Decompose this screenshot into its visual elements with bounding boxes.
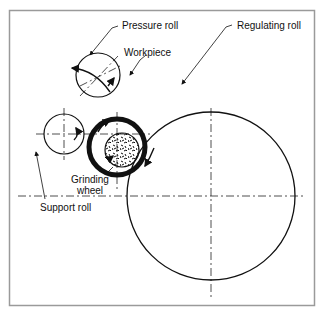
label-pressure-roll: Pressure roll <box>122 20 178 31</box>
label-grinding-wheel: Grinding wheel <box>66 174 114 196</box>
label-support-roll: Support roll <box>40 202 91 213</box>
pressure-roll <box>76 53 120 97</box>
workpiece <box>105 133 139 167</box>
label-grinding-wheel-line2: wheel <box>66 185 114 196</box>
label-workpiece: Workpiece <box>124 47 171 58</box>
label-grinding-wheel-line1: Grinding <box>66 174 114 185</box>
label-regulating-roll: Regulating roll <box>237 20 301 31</box>
